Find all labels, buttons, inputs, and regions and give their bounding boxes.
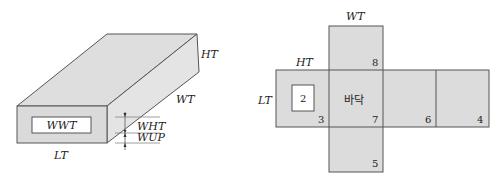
arrow-up-icon: [124, 143, 127, 147]
window-label: WWT: [47, 119, 79, 132]
net-number-4: 4: [477, 114, 483, 125]
net-length-label: LT: [257, 94, 273, 107]
net-number-8: 8: [372, 57, 378, 68]
net-number-5: 5: [372, 158, 378, 169]
net-bottom-label: 바닥: [344, 94, 364, 107]
net-number-3: 3: [318, 114, 324, 125]
width-label: WT: [176, 93, 196, 106]
net-number-6: 6: [425, 114, 431, 125]
height-label: HT: [200, 48, 220, 61]
net-top-label: WT: [346, 10, 366, 23]
arrow-up-icon: [124, 133, 127, 137]
diagram-canvas: WWT HT WT WHT WUP LT WT HT LT 바닥 2 3 7: [0, 0, 502, 182]
net-number-7: 7: [372, 114, 378, 125]
box-3d: WWT HT WT WHT WUP LT: [17, 34, 220, 162]
arrow-down-icon: [124, 130, 127, 133]
box-net: WT HT LT 바닥 2 3 7 6 4 8 5: [257, 10, 489, 172]
net-number-2: 2: [300, 93, 306, 104]
window-up-label: WUP: [137, 131, 166, 144]
net-height-label: HT: [295, 56, 315, 69]
length-label: LT: [53, 149, 69, 162]
